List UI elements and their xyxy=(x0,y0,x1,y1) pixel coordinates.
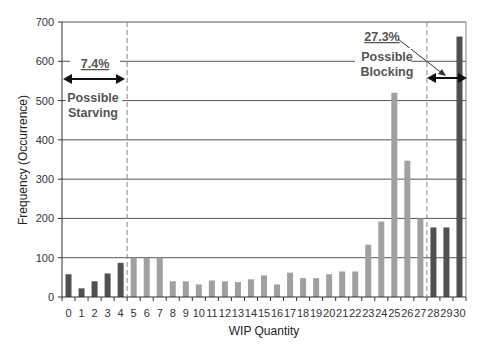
starving-percent: 7.4% xyxy=(81,57,110,71)
bar-wip-17 xyxy=(287,273,293,297)
y-tick-label: 100 xyxy=(36,252,54,264)
starving-double-arrow xyxy=(63,74,125,84)
x-tick-label: 25 xyxy=(388,307,400,319)
y-tick-label: 200 xyxy=(36,212,54,224)
bar-wip-2 xyxy=(92,281,98,297)
bar-wip-29 xyxy=(443,227,449,297)
x-tick-label: 9 xyxy=(183,307,189,319)
blocking-percent: 27.3% xyxy=(364,30,399,44)
x-tick-label: 16 xyxy=(271,307,283,319)
y-tick-label: 700 xyxy=(36,16,54,28)
bar-wip-6 xyxy=(144,258,150,297)
x-tick-label: 19 xyxy=(310,307,322,319)
x-tick-label: 1 xyxy=(78,307,84,319)
bar-wip-4 xyxy=(118,263,124,297)
bar-wip-9 xyxy=(183,281,189,297)
y-tick-label: 300 xyxy=(36,173,54,185)
x-tick-label: 14 xyxy=(245,307,257,319)
x-tick-label: 24 xyxy=(375,307,387,319)
bar-wip-7 xyxy=(157,258,163,297)
x-tick-label: 27 xyxy=(414,307,426,319)
x-tick-label: 13 xyxy=(232,307,244,319)
bar-wip-3 xyxy=(105,273,111,297)
x-tick-label: 7 xyxy=(157,307,163,319)
x-tick-label: 20 xyxy=(323,307,335,319)
blocking-leader-arrowhead xyxy=(438,69,446,76)
x-tick-label: 22 xyxy=(349,307,361,319)
x-tick-labels: 0123456789101112131415161718192021222324… xyxy=(65,307,465,319)
y-tick-label: 400 xyxy=(36,134,54,146)
y-tick-label: 600 xyxy=(36,55,54,67)
bar-wip-28 xyxy=(430,227,436,297)
y-tick-label: 500 xyxy=(36,95,54,107)
bar-wip-19 xyxy=(313,278,319,297)
x-tick-label: 8 xyxy=(170,307,176,319)
bar-wip-27 xyxy=(417,218,423,297)
x-tick-label: 2 xyxy=(92,307,98,319)
x-tick-label: 23 xyxy=(362,307,374,319)
bar-wip-18 xyxy=(300,278,306,297)
x-axis-title: WIP Quantity xyxy=(229,324,299,338)
x-tick-label: 3 xyxy=(105,307,111,319)
bar-wip-26 xyxy=(404,161,410,297)
x-tick-label: 26 xyxy=(401,307,413,319)
bar-wip-16 xyxy=(274,284,280,297)
blocking-label-line2: Blocking xyxy=(361,65,414,79)
bar-wip-0 xyxy=(66,274,72,297)
y-tick-labels: 0100200300400500600700 xyxy=(36,16,54,303)
bar-wip-24 xyxy=(378,222,384,297)
starving-label-line1: Possible xyxy=(67,91,118,105)
bar-wip-8 xyxy=(170,281,176,297)
bar-wip-14 xyxy=(248,279,254,297)
x-tick-label: 21 xyxy=(336,307,348,319)
x-tick-label: 12 xyxy=(219,307,231,319)
bar-wip-25 xyxy=(391,93,397,297)
x-tick-label: 11 xyxy=(206,307,217,319)
bar-wip-12 xyxy=(222,281,228,297)
x-tick-label: 5 xyxy=(131,307,137,319)
bar-wip-11 xyxy=(209,281,215,298)
x-tick-label: 28 xyxy=(427,307,439,319)
y-tick-label: 0 xyxy=(48,291,54,303)
x-tick-label: 4 xyxy=(118,307,124,319)
bar-wip-1 xyxy=(79,288,85,297)
bar-wip-20 xyxy=(326,274,332,297)
x-tick-label: 10 xyxy=(193,307,205,319)
x-tick-label: 0 xyxy=(65,307,71,319)
x-tick-label: 29 xyxy=(440,307,452,319)
bar-wip-5 xyxy=(131,258,137,297)
bar-wip-21 xyxy=(339,271,345,297)
bar-wip-22 xyxy=(352,271,358,297)
y-axis-title: Frequency (Occurrence) xyxy=(16,95,30,225)
blocking-label-line1: Possible xyxy=(361,50,412,64)
bar-wip-15 xyxy=(261,275,267,297)
x-tick-label: 6 xyxy=(144,307,150,319)
wip-frequency-bar-chart: 0100200300400500600700 01234567891011121… xyxy=(0,0,483,356)
bar-wip-13 xyxy=(235,282,241,297)
bar-wip-10 xyxy=(196,284,202,297)
starving-label-line2: Starving xyxy=(68,106,118,120)
bar-wip-23 xyxy=(365,245,371,297)
x-tick-label: 30 xyxy=(453,307,465,319)
x-tick-label: 17 xyxy=(284,307,296,319)
x-tick-label: 15 xyxy=(258,307,270,319)
x-tick-label: 18 xyxy=(297,307,309,319)
